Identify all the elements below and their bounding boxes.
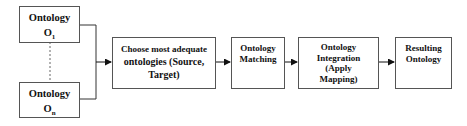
step-text: Choose most adequate	[113, 44, 215, 55]
merge-bracket	[80, 25, 96, 99]
ontology-o1-box: Ontology O1	[19, 6, 80, 43]
step-text: ontologies (Source,	[113, 55, 215, 68]
ontology-on-label: Ontology	[20, 86, 79, 101]
ontology-integration-box: Ontology Integration (Apply Mapping)	[298, 37, 379, 89]
ontology-matching-box: Ontology Matching	[231, 37, 285, 89]
step-text: Ontology	[396, 54, 451, 65]
step-text: Matching	[232, 54, 284, 65]
resulting-ontology-box: Resulting Ontology	[395, 37, 452, 89]
ontology-on-symbol: On	[20, 101, 79, 121]
ontology-on-box: Ontology On	[19, 82, 80, 118]
step-text: Ontology	[299, 42, 378, 53]
step-text: (Apply	[299, 63, 378, 74]
choose-ontologies-box: Choose most adequate ontologies (Source,…	[112, 37, 216, 89]
step-text: Integration	[299, 53, 378, 64]
step-text: Target)	[113, 68, 215, 81]
ontology-o1-symbol: O1	[20, 25, 79, 45]
step-text: Ontology	[232, 43, 284, 54]
step-text: Resulting	[396, 43, 451, 54]
ontology-o1-label: Ontology	[20, 10, 79, 25]
step-text: Mapping)	[299, 74, 378, 85]
